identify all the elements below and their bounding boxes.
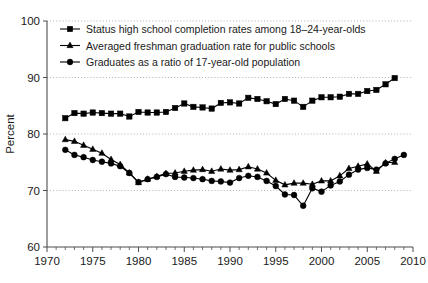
marker-square	[365, 88, 370, 93]
marker-circle	[255, 174, 261, 180]
series-line	[65, 150, 404, 206]
marker-square	[355, 91, 360, 96]
marker-circle	[337, 179, 343, 185]
marker-circle	[99, 159, 105, 165]
marker-square	[81, 111, 86, 116]
marker-square	[118, 111, 123, 116]
x-axis: 197019751980198519901995200020052010	[34, 247, 426, 267]
series-3	[62, 147, 406, 209]
marker-circle	[236, 175, 242, 181]
y-axis-title-label: Percent	[4, 113, 16, 153]
marker-triangle	[199, 166, 205, 172]
marker-circle	[72, 152, 78, 158]
marker-circle	[282, 192, 288, 198]
marker-square	[273, 101, 278, 106]
marker-circle	[383, 160, 389, 166]
marker-square	[154, 110, 159, 115]
marker-square	[374, 87, 379, 92]
marker-circle	[355, 167, 361, 173]
marker-circle	[319, 189, 325, 195]
marker-circle	[245, 173, 251, 179]
legend-label: Graduates as a ratio of 17-year-old popu…	[86, 56, 300, 68]
marker-circle	[218, 179, 224, 185]
marker-circle	[209, 178, 215, 184]
legend: Status high school completion rates amon…	[60, 23, 366, 68]
marker-square	[63, 115, 68, 120]
series-line	[65, 78, 394, 118]
x-tick-label: 1980	[126, 255, 152, 267]
marker-circle	[172, 174, 178, 180]
legend-item: Status high school completion rates amon…	[60, 23, 366, 35]
y-tick-label: 80	[27, 128, 40, 140]
legend-item: Graduates as a ratio of 17-year-old popu…	[60, 56, 300, 68]
marker-triangle	[300, 180, 306, 186]
x-tick-label: 1985	[171, 255, 197, 267]
marker-square	[90, 110, 95, 115]
marker-circle	[264, 178, 270, 184]
marker-square	[227, 100, 232, 105]
marker-circle	[328, 183, 334, 189]
marker-circle	[374, 167, 380, 173]
marker-square	[182, 101, 187, 106]
marker-circle	[309, 185, 315, 191]
x-tick-label: 2010	[400, 255, 426, 267]
marker-circle	[364, 165, 370, 171]
y-axis: 60708090100	[21, 15, 47, 253]
chart-container: 60708090100 1970197519801985199019952000…	[0, 0, 428, 283]
marker-square	[346, 91, 351, 96]
marker-circle	[401, 152, 407, 158]
marker-circle	[163, 171, 169, 177]
marker-square	[310, 98, 315, 103]
marker-square	[264, 99, 269, 104]
marker-square	[218, 100, 223, 105]
marker-square	[301, 104, 306, 109]
series-layer	[62, 75, 407, 208]
marker-square	[209, 106, 214, 111]
marker-square	[282, 96, 287, 101]
marker-circle	[191, 175, 197, 181]
marker-square	[200, 105, 205, 110]
marker-circle	[145, 176, 151, 182]
marker-triangle	[62, 136, 68, 142]
marker-square	[67, 26, 72, 31]
legend-label: Averaged freshman graduation rate for pu…	[86, 40, 335, 52]
marker-square	[127, 114, 132, 119]
marker-triangle	[218, 166, 224, 172]
line-chart: 60708090100 1970197519801985199019952000…	[0, 0, 428, 283]
marker-square	[255, 96, 260, 101]
marker-square	[236, 101, 241, 106]
marker-square	[246, 95, 251, 100]
marker-circle	[300, 203, 306, 209]
marker-circle	[90, 157, 96, 163]
x-tick-label: 2005	[354, 255, 380, 267]
marker-circle	[291, 192, 297, 198]
marker-triangle	[273, 177, 279, 183]
marker-triangle	[337, 172, 343, 178]
series-1	[63, 75, 398, 121]
marker-triangle	[318, 177, 324, 183]
marker-circle	[108, 160, 114, 166]
marker-triangle	[245, 163, 251, 169]
marker-square	[108, 111, 113, 116]
marker-circle	[227, 180, 233, 186]
marker-circle	[62, 147, 68, 153]
y-axis-title: Percent	[4, 113, 16, 153]
marker-square	[136, 109, 141, 114]
marker-circle	[273, 183, 279, 189]
marker-circle	[181, 175, 187, 181]
marker-square	[328, 95, 333, 100]
marker-square	[291, 98, 296, 103]
marker-square	[145, 110, 150, 115]
marker-square	[99, 110, 104, 115]
x-tick-label: 1995	[263, 255, 289, 267]
legend-item: Averaged freshman graduation rate for pu…	[60, 40, 335, 52]
marker-square	[392, 75, 397, 80]
marker-triangle	[67, 42, 73, 48]
marker-square	[191, 104, 196, 109]
marker-square	[163, 109, 168, 114]
marker-square	[383, 82, 388, 87]
y-tick-label: 100	[21, 15, 40, 27]
y-tick-label: 70	[27, 185, 40, 197]
legend-label: Status high school completion rates amon…	[86, 23, 366, 35]
marker-circle	[81, 154, 87, 160]
